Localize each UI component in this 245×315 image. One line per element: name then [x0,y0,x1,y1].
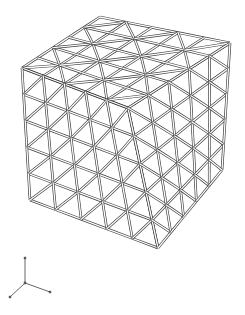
axis-origin-icon [24,282,27,285]
lattice-cube-figure [0,0,245,315]
axis-x-line [25,283,50,292]
axis-y-line [10,283,25,297]
lattice-cube-drawing [0,0,245,315]
axis-triad-icon [9,257,51,298]
axis-z-tip-icon [24,257,26,259]
axis-y-tip-icon [9,296,11,298]
axis-x-tip-icon [49,291,51,293]
lattice-cube [22,17,230,248]
